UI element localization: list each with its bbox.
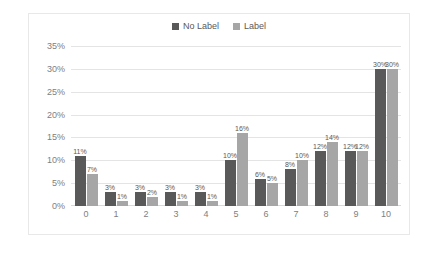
y-axis-tick-label: 15% bbox=[47, 132, 65, 142]
bar-value-label: 3% bbox=[165, 184, 175, 191]
bar-value-label: 5% bbox=[267, 175, 277, 182]
bar[interactable]: 3% bbox=[195, 46, 206, 206]
bar-group: 6%5% bbox=[251, 46, 281, 206]
x-axis-tick-label: 1 bbox=[101, 209, 131, 219]
bar-value-label: 3% bbox=[105, 184, 115, 191]
bar-group: 12%12% bbox=[341, 46, 371, 206]
bar[interactable]: 11% bbox=[75, 46, 86, 206]
bar[interactable]: 6% bbox=[255, 46, 266, 206]
x-axis-tick-label: 0 bbox=[71, 209, 101, 219]
legend-label: No Label bbox=[183, 22, 219, 31]
bar-value-label: 11% bbox=[73, 148, 87, 155]
bar[interactable]: 8% bbox=[285, 46, 296, 206]
bar-value-label: 10% bbox=[295, 152, 309, 159]
x-axis-tick-label: 6 bbox=[251, 209, 281, 219]
bar[interactable]: 10% bbox=[297, 46, 308, 206]
bar-fill bbox=[105, 192, 116, 206]
bar[interactable]: 10% bbox=[225, 46, 236, 206]
bar-value-label: 1% bbox=[207, 193, 217, 200]
legend-swatch-icon bbox=[172, 23, 179, 30]
legend-label: Label bbox=[244, 22, 266, 31]
bar[interactable]: 1% bbox=[207, 46, 218, 206]
bar[interactable]: 3% bbox=[105, 46, 116, 206]
bar-fill bbox=[297, 160, 308, 206]
bar-value-label: 12% bbox=[355, 143, 369, 150]
bar-value-label: 3% bbox=[135, 184, 145, 191]
bar-group: 3%1% bbox=[161, 46, 191, 206]
y-axis-tick-label: 10% bbox=[47, 155, 65, 165]
bar[interactable]: 12% bbox=[357, 46, 368, 206]
bar-value-label: 1% bbox=[177, 193, 187, 200]
x-axis-tick-label: 10 bbox=[371, 209, 401, 219]
bar-fill bbox=[267, 183, 278, 206]
bar-group: 3%1% bbox=[191, 46, 221, 206]
bar-fill bbox=[387, 69, 398, 206]
bar-fill bbox=[225, 160, 236, 206]
bar-fill bbox=[375, 69, 386, 206]
x-axis-tick-label: 8 bbox=[311, 209, 341, 219]
plot-area: 11%7%3%1%3%2%3%1%3%1%10%16%6%5%8%10%12%1… bbox=[71, 46, 401, 206]
bar[interactable]: 5% bbox=[267, 46, 278, 206]
bar-group: 10%16% bbox=[221, 46, 251, 206]
bar-value-label: 6% bbox=[255, 171, 265, 178]
bar-group: 3%2% bbox=[131, 46, 161, 206]
bar[interactable]: 30% bbox=[387, 46, 398, 206]
bar-fill bbox=[75, 156, 86, 206]
bar[interactable]: 14% bbox=[327, 46, 338, 206]
bar-group: 11%7% bbox=[71, 46, 101, 206]
x-axis-tick-label: 9 bbox=[341, 209, 371, 219]
bar[interactable]: 3% bbox=[165, 46, 176, 206]
bar-fill bbox=[147, 197, 158, 206]
bar[interactable]: 30% bbox=[375, 46, 386, 206]
bar-fill bbox=[117, 201, 128, 206]
bar-fill bbox=[135, 192, 146, 206]
legend-item[interactable]: No Label bbox=[172, 22, 219, 31]
bar[interactable]: 2% bbox=[147, 46, 158, 206]
bar-fill bbox=[345, 151, 356, 206]
x-axis-tick-label: 7 bbox=[281, 209, 311, 219]
bar[interactable]: 12% bbox=[315, 46, 326, 206]
bar-group: 30%30% bbox=[371, 46, 401, 206]
bar[interactable]: 16% bbox=[237, 46, 248, 206]
plot-wrapper: 35%30%25%20%15%10%5%0% 11%7%3%1%3%2%3%1%… bbox=[29, 46, 411, 234]
bar-fill bbox=[237, 133, 248, 206]
y-axis-tick-label: 5% bbox=[52, 178, 65, 188]
bar-fill bbox=[207, 201, 218, 206]
x-axis-tick-label: 2 bbox=[131, 209, 161, 219]
chart-container: No LabelLabel 35%30%25%20%15%10%5%0% 11%… bbox=[28, 13, 410, 235]
bar[interactable]: 12% bbox=[345, 46, 356, 206]
bar-fill bbox=[255, 179, 266, 206]
bar-fill bbox=[87, 174, 98, 206]
bar-fill bbox=[165, 192, 176, 206]
bar-group: 3%1% bbox=[101, 46, 131, 206]
y-axis-tick-label: 35% bbox=[47, 41, 65, 51]
bar[interactable]: 3% bbox=[135, 46, 146, 206]
bar[interactable]: 1% bbox=[177, 46, 188, 206]
y-axis: 35%30%25%20%15%10%5%0% bbox=[29, 46, 71, 206]
bar-value-label: 2% bbox=[147, 189, 157, 196]
x-axis-tick-label: 3 bbox=[161, 209, 191, 219]
bar[interactable]: 7% bbox=[87, 46, 98, 206]
bar-fill bbox=[327, 142, 338, 206]
bar-value-label: 16% bbox=[235, 125, 249, 132]
bar-group: 8%10% bbox=[281, 46, 311, 206]
bar-group: 12%14% bbox=[311, 46, 341, 206]
bar-value-label: 12% bbox=[313, 143, 327, 150]
x-axis-tick-label: 4 bbox=[191, 209, 221, 219]
chart-legend: No LabelLabel bbox=[29, 22, 409, 31]
bar-fill bbox=[315, 151, 326, 206]
bar[interactable]: 1% bbox=[117, 46, 128, 206]
bar-groups: 11%7%3%1%3%2%3%1%3%1%10%16%6%5%8%10%12%1… bbox=[71, 46, 401, 206]
bar-value-label: 1% bbox=[117, 193, 127, 200]
bar-fill bbox=[357, 151, 368, 206]
bar-fill bbox=[177, 201, 188, 206]
legend-item[interactable]: Label bbox=[233, 22, 266, 31]
bar-value-label: 7% bbox=[87, 166, 97, 173]
bar-value-label: 30% bbox=[385, 61, 399, 68]
x-axis-tick-label: 5 bbox=[221, 209, 251, 219]
bar-fill bbox=[285, 169, 296, 206]
y-axis-tick-label: 0% bbox=[52, 201, 65, 211]
bar-value-label: 14% bbox=[325, 134, 339, 141]
y-axis-tick-label: 30% bbox=[47, 64, 65, 74]
x-axis: 012345678910 bbox=[71, 209, 401, 219]
